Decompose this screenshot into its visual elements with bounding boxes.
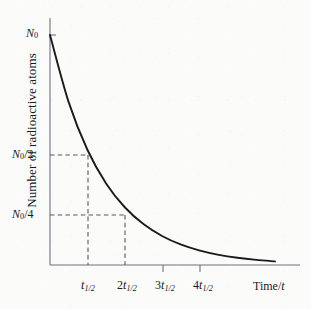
decay-curve	[50, 35, 275, 261]
y-tick-label-n0-sub: 0	[34, 31, 38, 40]
y-tick-label-n0-quarter: N0/4	[12, 208, 34, 222]
y-tick-label-n0-var: N	[26, 26, 34, 40]
x-tick-label-t-half-sub: 1/2	[84, 284, 94, 293]
y-tick-label-n0-half: N0/2	[12, 148, 34, 162]
x-tick-label-t-half: t1/2	[81, 279, 95, 293]
decay-chart-canvas	[0, 0, 311, 309]
x-tick-label-4t-half: 4t1/2	[193, 279, 213, 293]
y-tick-label-n0-quarter-suffix: /4	[24, 207, 33, 221]
x-axis-title-prefix: Time/	[253, 279, 281, 293]
x-axis-title-var: t	[281, 279, 284, 293]
y-tick-label-n0-quarter-var: N	[12, 207, 20, 221]
y-tick-label-n0-half-suffix: /2	[24, 147, 33, 161]
x-tick-label-3t-half: 3t1/2	[155, 279, 175, 293]
y-tick-label-n0-half-var: N	[12, 147, 20, 161]
decay-chart-figure: Number of radioactive atoms N0 N0/2 N0/4…	[0, 0, 311, 309]
x-axis-title: Time/t	[253, 280, 285, 292]
x-tick-label-3t-half-sub: 1/2	[164, 284, 174, 293]
y-tick-label-n0: N0	[26, 27, 38, 41]
x-tick-label-2t-half-sub: 1/2	[126, 284, 136, 293]
x-tick-label-4t-half-sub: 1/2	[202, 284, 212, 293]
y-axis-title: Number of radioactive atoms	[25, 41, 38, 221]
x-tick-label-2t-half: 2t1/2	[117, 279, 137, 293]
